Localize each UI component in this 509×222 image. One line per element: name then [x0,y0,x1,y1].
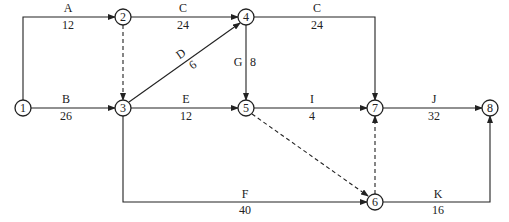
label-J-duration: 32 [428,109,440,123]
label-A-duration: 12 [62,18,74,32]
label-C1-duration: 24 [177,18,189,32]
label-A-name: A [64,1,73,15]
node-5: 5 [238,100,254,116]
network-diagram: A 12 B 26 C 24 C 24 D 6 E 12 G 8 I 4 J 3… [0,0,509,222]
svg-text:8: 8 [487,101,493,115]
svg-text:2: 2 [120,10,126,24]
label-F-duration: 40 [239,203,251,217]
label-B-name: B [62,92,70,106]
node-6: 6 [367,194,383,210]
label-K-name: K [434,187,443,201]
label-I-name: I [310,92,314,106]
label-G-duration: 8 [250,55,256,69]
edge-D [129,23,240,102]
svg-text:3: 3 [120,101,126,115]
label-B-duration: 26 [60,109,72,123]
label-E-duration: 12 [180,109,192,123]
dummy-edge-5-6 [252,114,368,196]
svg-text:6: 6 [372,195,378,209]
label-D-name: D [173,45,188,62]
node-1: 1 [15,100,31,116]
svg-text:1: 1 [20,101,26,115]
svg-text:4: 4 [243,10,249,24]
svg-text:5: 5 [243,101,249,115]
node-7: 7 [367,100,383,116]
label-K-duration: 16 [432,203,444,217]
node-3: 3 [115,100,131,116]
label-I-duration: 4 [309,109,315,123]
svg-text:7: 7 [372,101,378,115]
label-C2-duration: 24 [311,18,323,32]
label-E-name: E [182,92,189,106]
node-8: 8 [482,100,498,116]
label-D-duration: 6 [186,57,199,72]
label-C1-name: C [179,1,187,15]
label-G-name: G [234,55,243,69]
label-C2-name: C [313,1,321,15]
label-F-name: F [242,187,249,201]
node-4: 4 [238,9,254,25]
node-2: 2 [115,9,131,25]
label-J-name: J [432,92,437,106]
